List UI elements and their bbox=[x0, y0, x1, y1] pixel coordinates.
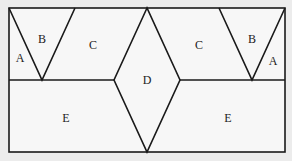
quilt-diagram: A B C D C B A E E bbox=[0, 0, 292, 161]
label-E-left: E bbox=[62, 111, 69, 125]
label-B-right: B bbox=[248, 32, 256, 46]
label-D: D bbox=[143, 73, 152, 87]
label-A-left: A bbox=[16, 51, 25, 65]
label-C-left: C bbox=[89, 38, 97, 52]
label-A-right: A bbox=[269, 54, 278, 68]
label-E-right: E bbox=[224, 111, 231, 125]
label-C-right: C bbox=[195, 38, 203, 52]
label-B-left: B bbox=[38, 32, 46, 46]
